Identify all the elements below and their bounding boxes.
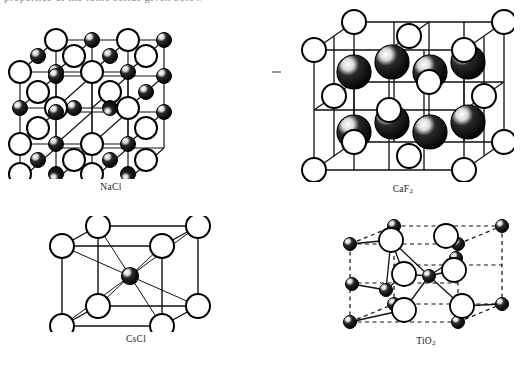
sodium-ion — [121, 65, 136, 80]
calcium-ion — [492, 10, 514, 34]
oxide-ion — [442, 258, 466, 282]
caption-subscript: 2 — [409, 187, 413, 195]
sodium-ion — [157, 69, 172, 84]
fluoride-ion — [337, 55, 371, 89]
chloride-ion — [86, 216, 110, 238]
figure-tio2: TiO2 — [334, 218, 518, 358]
figure-page: properties of the ionic solids given bel… — [0, 0, 520, 366]
figure-nacl: NaCl — [6, 14, 216, 194]
calcium-ion — [452, 158, 476, 182]
sodium-ion — [157, 105, 172, 120]
chloride-ion — [45, 29, 67, 51]
chloride-ion — [50, 314, 74, 332]
calcium-ion — [472, 84, 496, 108]
sodium-ion — [139, 85, 154, 100]
caption-subscript: 2 — [432, 339, 436, 347]
chloride-ion — [117, 29, 139, 51]
sodium-ion — [103, 49, 118, 64]
figure-caption-tio2: TiO2 — [334, 336, 518, 347]
figure-caption-caf2: CaF2 — [292, 184, 514, 195]
sodium-ion — [157, 33, 172, 48]
fluoride-ion — [413, 115, 447, 149]
chloride-ion — [86, 294, 110, 318]
stray-dash-artifact — [272, 71, 281, 73]
fluoride-ion — [375, 45, 409, 79]
sodium-ion — [103, 153, 118, 168]
figure-cscl: CsCl — [44, 216, 228, 358]
oxide-ion — [434, 224, 458, 248]
calcium-ion — [377, 98, 401, 122]
sodium-ion — [49, 167, 64, 180]
titanium-ion — [496, 220, 509, 233]
cscl-diagram — [44, 216, 228, 332]
chloride-ion — [81, 133, 103, 155]
calcium-ion — [322, 84, 346, 108]
chloride-ion — [117, 97, 139, 119]
titanium-ion — [380, 284, 393, 297]
oxide-ion — [392, 262, 416, 286]
sodium-ion — [49, 137, 64, 152]
oxide-ion — [450, 294, 474, 318]
chloride-ion — [99, 81, 121, 103]
titanium-ion — [344, 316, 357, 329]
chloride-ion — [135, 149, 157, 171]
calcium-ion — [342, 130, 366, 154]
sodium-ion — [67, 101, 82, 116]
caf2-diagram — [292, 4, 514, 182]
nacl-atoms — [9, 29, 172, 179]
titanium-ion — [496, 298, 509, 311]
sodium-ion — [13, 101, 28, 116]
chloride-ion — [9, 133, 31, 155]
tio2-diagram — [334, 218, 518, 334]
chloride-ion — [186, 216, 210, 238]
chloride-ion — [135, 45, 157, 67]
sodium-ion — [49, 105, 64, 120]
figure-caption-cscl: CsCl — [44, 334, 228, 344]
calcium-ion — [342, 10, 366, 34]
sodium-ion — [31, 153, 46, 168]
caption-base: NaCl — [100, 182, 121, 192]
caption-base: CsCl — [126, 334, 146, 344]
cropped-caption-top: properties of the ionic solids given bel… — [4, 0, 304, 5]
chloride-ion — [63, 149, 85, 171]
calcium-ion — [302, 38, 326, 62]
chloride-ion — [9, 163, 31, 179]
sodium-ion — [121, 137, 136, 152]
tio2-titanium-ions — [344, 220, 509, 329]
oxide-ion — [379, 228, 403, 252]
sodium-ion — [103, 101, 118, 116]
caption-base: TiO — [416, 336, 432, 346]
chloride-ion — [150, 314, 174, 332]
chloride-ion — [81, 163, 103, 179]
calcium-ion — [302, 158, 326, 182]
figure-caf2: CaF2 — [292, 4, 514, 194]
chloride-ion — [63, 45, 85, 67]
oxide-ion — [392, 298, 416, 322]
caption-base: CaF — [393, 184, 410, 194]
calcium-ion — [452, 38, 476, 62]
sodium-ion — [85, 33, 100, 48]
fluoride-ion — [451, 105, 485, 139]
calcium-ion — [417, 70, 441, 94]
chloride-ion — [27, 81, 49, 103]
titanium-ion — [423, 270, 436, 283]
chloride-ion — [9, 61, 31, 83]
chloride-ion — [50, 234, 74, 258]
chloride-ion — [27, 117, 49, 139]
chloride-ion — [186, 294, 210, 318]
sodium-ion — [49, 69, 64, 84]
figure-caption-nacl: NaCl — [6, 182, 216, 192]
nacl-diagram — [6, 14, 216, 179]
chloride-ion — [81, 61, 103, 83]
titanium-ion — [346, 278, 359, 291]
calcium-ion — [397, 24, 421, 48]
sodium-ion — [121, 167, 136, 180]
sodium-ion — [31, 49, 46, 64]
chloride-ion — [150, 234, 174, 258]
caesium-ion — [122, 268, 139, 285]
chloride-ion — [135, 117, 157, 139]
calcium-ion — [397, 144, 421, 168]
calcium-ion — [492, 130, 514, 154]
titanium-ion — [344, 238, 357, 251]
